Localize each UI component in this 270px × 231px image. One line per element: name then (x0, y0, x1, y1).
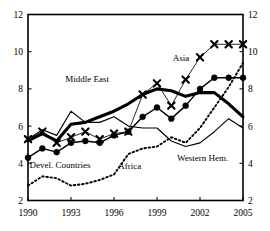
chart-container: 2468101224681012199019931996199920022005… (0, 0, 270, 231)
data-point-marker-circle (197, 86, 203, 92)
series-annotation-middle-east: Middle East (65, 74, 109, 84)
data-point-marker-circle (183, 103, 189, 109)
data-point-marker-circle (140, 114, 146, 120)
y-axis-tick-label-right: 10 (248, 47, 258, 57)
x-axis-tick-label: 1990 (19, 208, 38, 218)
y-axis-tick-label-right: 4 (248, 159, 253, 169)
data-point-marker-circle (168, 116, 174, 122)
y-axis-tick-label-left: 6 (18, 122, 23, 132)
data-point-marker-circle (226, 75, 232, 81)
data-point-marker-circle (82, 138, 88, 144)
y-axis-tick-label-right: 12 (248, 10, 258, 20)
data-point-marker-circle (154, 105, 160, 111)
y-axis-tick-label-left: 10 (14, 47, 24, 57)
x-axis-tick-label: 1999 (148, 208, 167, 218)
x-axis-tick-label: 1996 (105, 208, 124, 218)
data-point-marker-circle (39, 146, 45, 152)
y-axis-tick-label-right: 2 (248, 196, 253, 206)
series-annotation-devel-countries: Devel. Countries (29, 160, 90, 170)
y-axis-tick-label-left: 2 (18, 196, 23, 206)
y-axis-tick-label-left: 12 (14, 10, 24, 20)
y-axis-tick-label-left: 4 (18, 159, 23, 169)
series-annotation-africa: Africa (118, 161, 141, 171)
x-axis-tick-label: 1993 (62, 208, 81, 218)
y-axis-tick-label-left: 8 (18, 84, 23, 94)
line-chart: 2468101224681012199019931996199920022005… (0, 0, 270, 231)
data-point-marker-circle (211, 75, 217, 81)
x-axis-tick-label: 2002 (191, 208, 210, 218)
data-point-marker-circle (240, 75, 246, 81)
series-annotation-asia: Asia (173, 53, 190, 63)
series-annotation-western-hem: Western Hem. (177, 153, 228, 163)
data-point-marker-circle (54, 149, 60, 155)
x-axis-tick-label: 2005 (234, 208, 253, 218)
y-axis-tick-label-right: 6 (248, 122, 253, 132)
y-axis-tick-label-right: 8 (248, 84, 253, 94)
data-point-marker-circle (68, 140, 74, 146)
